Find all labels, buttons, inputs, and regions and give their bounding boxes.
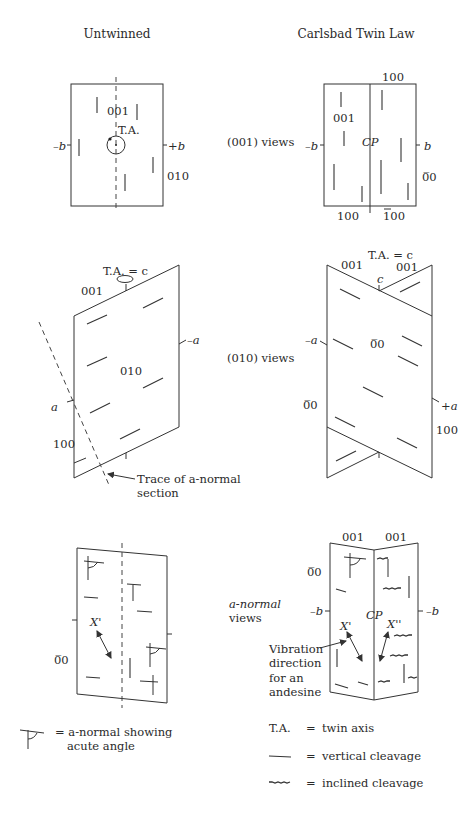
- trace-label-line1: Trace of a-normal: [137, 472, 241, 486]
- minus-b-left-label: –b: [310, 604, 323, 618]
- face-001-label: 001: [81, 284, 103, 298]
- face-100-label: 100: [436, 423, 458, 437]
- legend-inclined-eq: =: [306, 776, 316, 790]
- legend-ta-eq: =: [306, 721, 316, 735]
- carlsbad-twin-diagram: Untwinned Carlsbad Twin Law 001 T.A. –b …: [0, 0, 473, 815]
- header-carlsbad: Carlsbad Twin Law: [297, 27, 415, 41]
- row-label-001-views: (001) views: [227, 135, 294, 149]
- carlsbad-anormal-view: 001 001 0̅0 –b –b CP X' X'' Vibration di…: [268, 530, 439, 700]
- composition-plane-label: CP: [362, 135, 379, 149]
- minus-b-right-label: –b: [426, 604, 439, 618]
- carlsbad-010-view: T.A. = c 001 001 c –a 0̅0 0̅0 +a 100: [303, 248, 458, 478]
- face-100-label: 100: [53, 437, 75, 451]
- face-001-right-label: 001: [385, 530, 407, 544]
- minus-a-label: –a: [187, 333, 200, 347]
- face-0-1-0-label: 0̅0: [307, 565, 322, 579]
- vibration-label-3: for an: [269, 671, 304, 685]
- untwinned-anormal-view: X' 0̅0: [54, 543, 172, 708]
- legend-anormal-text-1: = a-normal showing: [55, 725, 173, 739]
- face-001-right-label: 001: [396, 260, 418, 274]
- plus-a-label: +a: [441, 399, 458, 413]
- twin-axis-label: T.A.: [118, 123, 140, 137]
- face-0-1-0-label: 0̅0: [422, 170, 437, 184]
- inclined-cleavage-symbol: [269, 782, 290, 783]
- trace-label-line2: section: [137, 486, 179, 500]
- untwinned-010-view: T.A. = c 001 –a 010 a 100 Trace of a-nor…: [39, 264, 241, 500]
- legend-ta-value: twin axis: [322, 721, 374, 735]
- x-prime-vibration-arrow: [347, 632, 362, 661]
- bottom-100-label: 100: [337, 209, 359, 223]
- x-double-prime-label: X'': [386, 617, 402, 631]
- minus-b-label: –b: [305, 139, 318, 153]
- face-010-label: 010: [120, 364, 142, 378]
- face-001-left-label: 001: [342, 530, 364, 544]
- untwinned-001-view: 001 T.A. –b +b 010: [53, 77, 189, 212]
- legend: = a-normal showing acute angle T.A. = tw…: [20, 721, 424, 790]
- row-label-anormal-2: views: [228, 611, 262, 625]
- x-prime-label: X': [339, 619, 351, 633]
- legend-vertical-value: vertical cleavage: [321, 749, 421, 763]
- face-010-label: 010: [167, 169, 189, 183]
- face-0-1-0-label: 0̅0: [54, 653, 69, 667]
- c-label: c: [377, 272, 384, 286]
- plus-b-label: +b: [168, 139, 185, 153]
- face-0-1-0-left-label: 0̅0: [303, 398, 318, 412]
- legend-inclined-value: inclined cleavage: [322, 776, 424, 790]
- minus-b-label: –b: [53, 139, 66, 153]
- x-prime-label: X': [89, 615, 101, 629]
- legend-ta-key: T.A.: [269, 721, 291, 735]
- face-001-label: 001: [107, 104, 129, 118]
- row-label-010-views: (010) views: [227, 351, 294, 365]
- x-double-prime-vibration-arrow: [380, 632, 388, 661]
- header-untwinned: Untwinned: [83, 27, 150, 41]
- legend-anormal-symbol: [20, 730, 44, 749]
- vibration-label-4: andesine: [269, 685, 321, 699]
- carlsbad-001-view: 100 001 CP –b b 0̅0 100 100: [305, 70, 437, 223]
- minus-a-label: –a: [305, 333, 318, 347]
- row-label-anormal-1: a-normal: [229, 597, 281, 611]
- vibration-arrow: [97, 631, 111, 658]
- legend-anormal-text-2: acute angle: [67, 739, 135, 753]
- b-label: b: [424, 139, 431, 153]
- vibration-label-2: direction: [269, 656, 322, 670]
- face-001-left-label: 001: [341, 258, 363, 272]
- composition-plane-label: CP: [366, 608, 383, 622]
- vibration-label-1: Vibration: [268, 642, 324, 656]
- top-100-label: 100: [382, 70, 404, 84]
- face-0-1-0-center-label: 0̅0: [370, 337, 385, 351]
- vertical-cleavage-symbol: [269, 756, 291, 757]
- face-001-label: 001: [333, 111, 355, 125]
- a-label: a: [51, 400, 58, 414]
- ta-c-label: T.A. = c: [103, 264, 148, 278]
- bottom-bar-100-label: 100: [383, 209, 405, 223]
- legend-vertical-eq: =: [306, 749, 316, 763]
